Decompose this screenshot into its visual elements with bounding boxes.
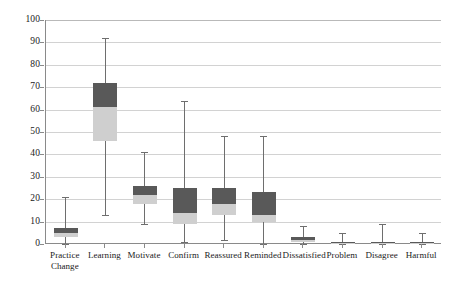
box-upper-quartile: [173, 188, 197, 213]
box-plot-series: [46, 20, 86, 243]
box-lower-quartile: [252, 215, 276, 222]
x-axis-tick-label: Reminded: [243, 250, 283, 261]
whisker-cap-lower: [221, 240, 228, 241]
y-axis-tick-mark: [40, 110, 44, 111]
y-axis-tick-label: 10: [6, 217, 40, 227]
y-axis-tick-mark: [40, 222, 44, 223]
whisker-cap-upper: [221, 136, 228, 137]
x-axis-tick-mark: [342, 244, 343, 248]
box-plot-series: [363, 20, 403, 243]
box-plot-chart: 0102030405060708090100 Practice ChangeLe…: [0, 0, 451, 286]
x-axis-tick-mark: [104, 244, 105, 248]
y-axis-tick-label: 0: [6, 239, 40, 249]
box-plot-series: [86, 20, 126, 243]
y-axis-tick-label: 80: [6, 60, 40, 70]
whisker-cap-lower: [260, 244, 267, 245]
y-axis-tick-mark: [40, 154, 44, 155]
box-lower-quartile: [291, 240, 315, 242]
box-upper-quartile: [252, 192, 276, 214]
y-axis-tick-label: 60: [6, 105, 40, 115]
y-axis-tick-mark: [40, 177, 44, 178]
whisker-cap-lower: [300, 244, 307, 245]
whisker-cap-upper: [181, 101, 188, 102]
y-axis-tick-mark: [40, 132, 44, 133]
x-axis-tick-label: Practice Change: [45, 250, 85, 272]
whisker-cap-upper: [62, 197, 69, 198]
plot-area: [45, 20, 441, 244]
y-axis-tick-label: 70: [6, 82, 40, 92]
box-plot-series: [125, 20, 165, 243]
box-lower-quartile: [212, 204, 236, 215]
box-upper-quartile: [133, 186, 157, 195]
x-axis-tick-label: Disagree: [362, 250, 402, 261]
x-axis-tick-mark: [421, 244, 422, 248]
whisker-cap-lower: [141, 224, 148, 225]
x-axis-tick-mark: [263, 244, 264, 248]
box-plot-series: [165, 20, 205, 243]
box-lower-quartile: [133, 195, 157, 204]
whisker-cap-lower: [102, 215, 109, 216]
whisker-cap-lower: [181, 242, 188, 243]
x-axis-tick-mark: [223, 244, 224, 248]
whisker-cap-upper: [260, 136, 267, 137]
whisker-cap-upper: [419, 233, 426, 234]
whisker-cap-upper: [102, 38, 109, 39]
y-axis-tick-mark: [40, 42, 44, 43]
x-axis-tick-mark: [302, 244, 303, 248]
box-lower-quartile: [173, 213, 197, 224]
box-lower-quartile: [410, 243, 434, 245]
x-axis-tick-mark: [144, 244, 145, 248]
y-axis-tick-mark: [40, 65, 44, 66]
whisker-line: [263, 136, 264, 244]
x-axis-tick-label: Confirm: [164, 250, 204, 261]
x-axis-tick-label: Reassured: [203, 250, 243, 261]
box-plot-series: [323, 20, 363, 243]
y-axis-tick-label: 50: [6, 127, 40, 137]
box-lower-quartile: [54, 233, 78, 237]
y-axis-tick-mark: [40, 244, 44, 245]
x-axis-tick-label: Learning: [85, 250, 125, 261]
x-axis-tick-label: Problem: [322, 250, 362, 261]
whisker-cap-lower: [62, 244, 69, 245]
y-axis-tick-label: 100: [6, 15, 40, 25]
box-plot-series: [244, 20, 284, 243]
y-axis-tick-mark: [40, 20, 44, 21]
x-axis-tick-label: Motivate: [124, 250, 164, 261]
box-upper-quartile: [93, 83, 117, 108]
x-axis-tick-mark: [382, 244, 383, 248]
whisker-cap-upper: [379, 224, 386, 225]
x-axis-tick-mark: [184, 244, 185, 248]
box-plot-series: [402, 20, 442, 243]
box-lower-quartile: [93, 107, 117, 141]
box-plot-series: [284, 20, 324, 243]
y-axis-tick-label: 20: [6, 194, 40, 204]
whisker-cap-upper: [300, 226, 307, 227]
whisker-cap-upper: [339, 233, 346, 234]
x-axis-tick-mark: [65, 244, 66, 248]
y-axis-tick-label: 90: [6, 37, 40, 47]
y-axis-tick-label: 40: [6, 149, 40, 159]
whisker-cap-upper: [141, 152, 148, 153]
x-axis-tick-label: Dissatisfied: [283, 250, 323, 261]
box-lower-quartile: [371, 243, 395, 245]
box-plot-series: [204, 20, 244, 243]
x-axis-tick-label: Harmful: [401, 250, 441, 261]
y-axis-tick-mark: [40, 199, 44, 200]
y-axis-tick-mark: [40, 87, 44, 88]
y-axis-tick-label: 30: [6, 172, 40, 182]
box-upper-quartile: [212, 188, 236, 204]
